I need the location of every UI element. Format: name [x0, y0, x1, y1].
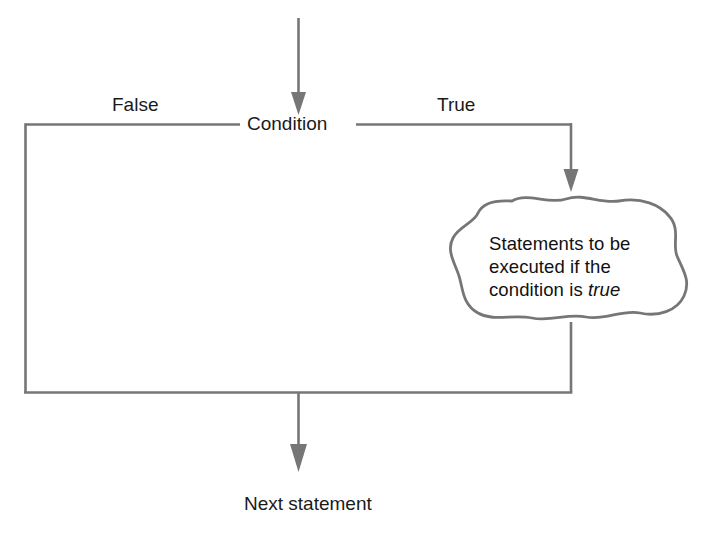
next-statement-node-label: Next statement	[244, 494, 372, 513]
entry-arrow-head	[291, 92, 306, 115]
branch-label-true: True	[437, 95, 475, 114]
statements-cloud-text: Statements to be executed if the conditi…	[489, 232, 679, 301]
statements-cloud-line-3: condition is true	[489, 278, 679, 301]
condition-node-label: Condition	[247, 114, 327, 133]
true-branch-arrow-head	[564, 169, 579, 192]
exit-arrow	[290, 392, 307, 472]
branch-label-false: False	[112, 95, 158, 114]
statements-cloud-line-3-prefix: condition is	[489, 279, 588, 300]
entry-arrow	[291, 18, 306, 115]
statements-cloud-line-3-emphasis: true	[588, 279, 620, 300]
true-branch-arrow	[564, 123, 579, 192]
statements-cloud-line-1: Statements to be	[489, 232, 679, 255]
flowchart-canvas: False True Condition Statements to be ex…	[0, 0, 707, 542]
exit-arrow-head	[290, 444, 307, 472]
statements-cloud-line-2: executed if the	[489, 255, 679, 278]
